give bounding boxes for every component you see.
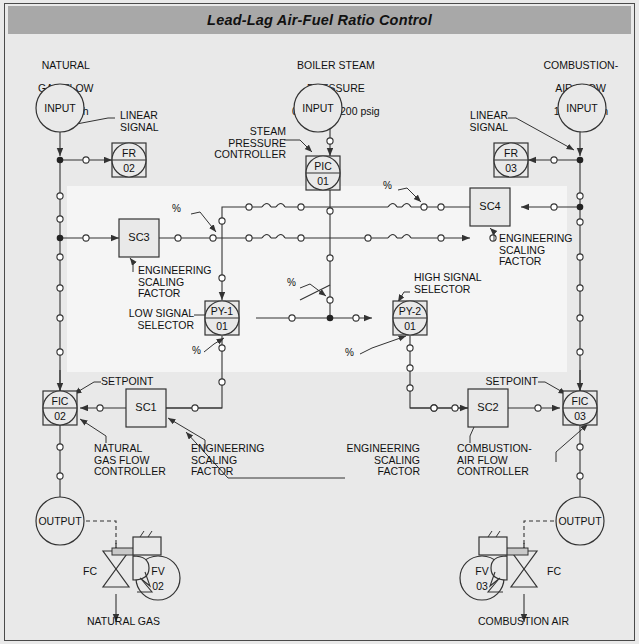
sc4-label: SC4 [470, 200, 510, 212]
fic03-num: 03 [558, 410, 602, 422]
fv02-num: 02 [136, 580, 180, 592]
fv03-tag: FV [460, 565, 504, 577]
py1-tag: PY-1 [200, 305, 244, 317]
fr02-num: 02 [107, 162, 151, 174]
sc1-label: SC1 [126, 401, 166, 413]
input-left-label: INPUT [36, 102, 84, 114]
scaling-blocks [119, 188, 510, 427]
output-right-label: OUTPUT [552, 515, 608, 527]
fr02-tag: FR [107, 147, 151, 159]
fr03-tag: FR [489, 147, 533, 159]
sc3-label: SC3 [119, 231, 159, 243]
symbol-layer [0, 0, 639, 644]
py2-num: 01 [388, 320, 432, 332]
input-right-label: INPUT [558, 102, 606, 114]
py1-num: 01 [200, 320, 244, 332]
output-left-label: OUTPUT [32, 515, 88, 527]
fic03-tag: FIC [558, 395, 602, 407]
fv03-num: 03 [460, 580, 504, 592]
pic01-num: 01 [301, 175, 345, 187]
diagram-page: Lead-Lag Air-Fuel Ratio Control [0, 0, 639, 644]
py2-tag: PY-2 [388, 305, 432, 317]
fv02-tag: FV [136, 565, 180, 577]
fic02-tag: FIC [38, 395, 82, 407]
fr03-num: 03 [489, 162, 533, 174]
fic02-num: 02 [38, 410, 82, 422]
sc2-label: SC2 [468, 401, 508, 413]
input-center-label: INPUT [294, 102, 342, 114]
pic01-tag: PIC [301, 160, 345, 172]
